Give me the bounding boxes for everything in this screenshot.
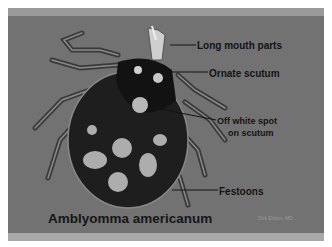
slide: Long mouth parts Ornate scutum Off white… — [8, 8, 324, 241]
slide-bottom-bar — [8, 233, 324, 241]
photo-credit: Dirk Elston, MD — [258, 215, 293, 221]
label-long-mouth-parts: Long mouth parts — [197, 40, 282, 51]
label-off-white-spot: Off white spot — [217, 116, 277, 127]
label-ornate-scutum: Ornate scutum — [209, 68, 280, 79]
species-title: Amblyomma americanum — [48, 211, 212, 226]
label-on-scutum: on scutum — [228, 128, 274, 139]
label-festoons: Festoons — [219, 186, 263, 197]
